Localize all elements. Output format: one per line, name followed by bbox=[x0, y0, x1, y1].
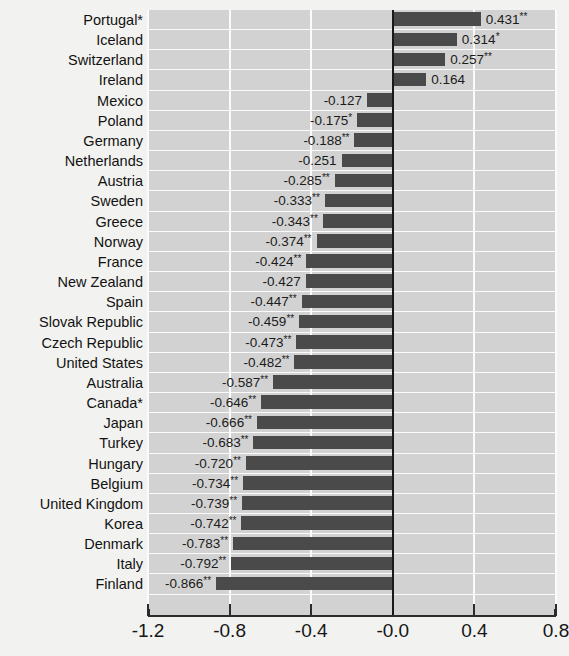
bar bbox=[393, 73, 426, 87]
bar-row: -0.343** bbox=[148, 212, 556, 232]
significance-marker: ** bbox=[520, 11, 528, 22]
bar-row: -0.333** bbox=[148, 191, 556, 211]
bar-value-label: -0.459** bbox=[248, 313, 294, 330]
bar-row: -0.742** bbox=[148, 514, 556, 534]
significance-marker: ** bbox=[244, 414, 252, 425]
category-label: Slovak Republic bbox=[0, 312, 143, 332]
x-axis-tick-label: -0.8 bbox=[213, 620, 246, 642]
significance-marker: ** bbox=[230, 475, 238, 486]
bar-row: -0.783** bbox=[148, 534, 556, 554]
x-axis-tick-label: -0.4 bbox=[295, 620, 328, 642]
bar bbox=[243, 476, 393, 490]
significance-marker: ** bbox=[203, 575, 211, 586]
significance-marker: ** bbox=[342, 132, 350, 143]
bar-row: 0.257** bbox=[148, 50, 556, 70]
bar bbox=[273, 375, 393, 389]
category-label: Czech Republic bbox=[0, 333, 143, 353]
bar-row: -0.734** bbox=[148, 474, 556, 494]
bar bbox=[393, 33, 457, 47]
bar bbox=[335, 174, 393, 188]
significance-marker: ** bbox=[220, 535, 228, 546]
bar bbox=[294, 355, 392, 369]
bar bbox=[393, 12, 481, 26]
significance-marker: ** bbox=[312, 192, 320, 203]
bar bbox=[342, 154, 393, 168]
bar-row: 0.164 bbox=[148, 70, 556, 90]
category-axis-labels: Portugal*IcelandSwitzerlandIrelandMexico… bbox=[0, 10, 143, 615]
category-label: Australia bbox=[0, 373, 143, 393]
bar-row: -0.792** bbox=[148, 554, 556, 574]
bar-value-label: 0.257** bbox=[450, 51, 492, 68]
bar bbox=[317, 234, 393, 248]
significance-marker: ** bbox=[284, 334, 292, 345]
bar-value-label: -0.127 bbox=[324, 92, 362, 109]
bar bbox=[306, 274, 393, 288]
category-label: Austria bbox=[0, 171, 143, 191]
significance-marker: ** bbox=[484, 51, 492, 62]
x-axis-line bbox=[148, 615, 556, 617]
bar-value-label: -0.175* bbox=[310, 112, 352, 129]
bar-row: -0.188** bbox=[148, 131, 556, 151]
bar-value-label: -0.683** bbox=[202, 434, 248, 451]
category-label: Germany bbox=[0, 131, 143, 151]
bar-row: -0.482** bbox=[148, 353, 556, 373]
bar bbox=[323, 214, 393, 228]
category-label: Korea bbox=[0, 514, 143, 534]
category-label: Poland bbox=[0, 111, 143, 131]
significance-marker: ** bbox=[241, 434, 249, 445]
x-axis-tick-label: 0.4 bbox=[461, 620, 487, 642]
bar bbox=[231, 557, 393, 571]
category-label: Turkey bbox=[0, 433, 143, 453]
bar-value-label: -0.482** bbox=[243, 354, 289, 371]
significance-marker: * bbox=[348, 112, 352, 123]
bar-row: -0.175* bbox=[148, 111, 556, 131]
bar-value-label: -0.742** bbox=[190, 515, 236, 532]
bar bbox=[302, 295, 393, 309]
bar bbox=[296, 335, 392, 349]
bar-row: -0.739** bbox=[148, 494, 556, 514]
category-label: Japan bbox=[0, 413, 143, 433]
category-label: Hungary bbox=[0, 454, 143, 474]
bar-value-label: -0.188** bbox=[303, 132, 349, 149]
bar bbox=[246, 456, 393, 470]
bar bbox=[242, 496, 393, 510]
bar-value-label: -0.447** bbox=[251, 293, 297, 310]
category-label: Finland bbox=[0, 574, 143, 594]
category-label: France bbox=[0, 252, 143, 272]
significance-marker: ** bbox=[282, 354, 290, 365]
category-label: Netherlands bbox=[0, 151, 143, 171]
category-label: Sweden bbox=[0, 191, 143, 211]
category-label: United States bbox=[0, 353, 143, 373]
plot-area: 0.431**0.314*0.257**0.164-0.127-0.175*-0… bbox=[148, 10, 556, 615]
x-axis-tick-label: -0.0 bbox=[376, 620, 409, 642]
category-label: Italy bbox=[0, 554, 143, 574]
bar-value-label: -0.251 bbox=[298, 152, 336, 169]
significance-marker: ** bbox=[248, 394, 256, 405]
bar-rows: 0.431**0.314*0.257**0.164-0.127-0.175*-0… bbox=[148, 10, 556, 615]
category-label: Switzerland bbox=[0, 50, 143, 70]
bar-row: -0.447** bbox=[148, 292, 556, 312]
bar-row: -0.683** bbox=[148, 433, 556, 453]
significance-marker: ** bbox=[304, 233, 312, 244]
bar bbox=[253, 436, 392, 450]
bar bbox=[393, 53, 445, 67]
bar-row: 0.431** bbox=[148, 10, 556, 30]
significance-marker: ** bbox=[233, 455, 241, 466]
bar bbox=[241, 516, 392, 530]
bar-value-label: 0.314* bbox=[462, 31, 500, 48]
bar-row: -0.866** bbox=[148, 574, 556, 594]
bar-row: -0.459** bbox=[148, 312, 556, 332]
bar-row: -0.720** bbox=[148, 454, 556, 474]
x-axis-tick-label: -1.2 bbox=[132, 620, 165, 642]
bar bbox=[354, 133, 392, 147]
bar-value-label: -0.866** bbox=[165, 575, 211, 592]
significance-marker: ** bbox=[310, 213, 318, 224]
bar bbox=[367, 93, 393, 107]
bar-row: -0.427 bbox=[148, 272, 556, 292]
bar-value-label: -0.333** bbox=[274, 192, 320, 209]
bar-value-label: -0.427 bbox=[262, 273, 300, 290]
bar-value-label: -0.343** bbox=[272, 213, 318, 230]
bar-value-label: -0.734** bbox=[192, 475, 238, 492]
bar-row: -0.127 bbox=[148, 91, 556, 111]
bar-value-label: -0.587** bbox=[222, 374, 268, 391]
